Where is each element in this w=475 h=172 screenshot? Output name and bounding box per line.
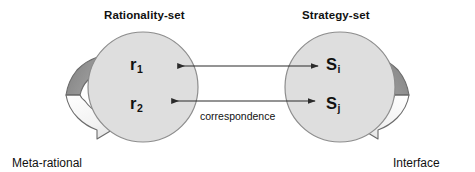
correspondence-label: correspondence — [200, 110, 275, 122]
meta-rational-caption: Meta-rational relationship — [12, 128, 82, 172]
node-label-r2: r2 — [130, 94, 143, 113]
interface-caption-line1: Interface — [393, 156, 454, 170]
node-subscript-si: i — [338, 63, 341, 75]
relationship-diagram: Rationality-set Strategy-set r1 r2 Si Sj… — [0, 0, 475, 172]
strategy-set-title: Strategy-set — [302, 9, 370, 23]
node-subscript-r2: 2 — [137, 102, 143, 114]
node-symbol-r1: r — [130, 55, 137, 73]
rationality-set-circle — [88, 32, 198, 142]
node-label-sj: Sj — [326, 94, 340, 113]
node-subscript-sj: j — [338, 102, 341, 114]
node-subscript-r1: 1 — [137, 63, 143, 75]
node-symbol-r2: r — [130, 94, 137, 112]
node-symbol-si: S — [326, 55, 337, 73]
rationality-set-title: Rationality-set — [104, 9, 185, 23]
interface-caption: Interface relationship — [393, 128, 454, 172]
meta-rational-caption-line1: Meta-rational — [12, 156, 82, 170]
strategy-set-circle — [285, 32, 395, 142]
node-label-si: Si — [326, 55, 340, 74]
node-label-r1: r1 — [130, 55, 143, 74]
node-symbol-sj: S — [326, 94, 337, 112]
